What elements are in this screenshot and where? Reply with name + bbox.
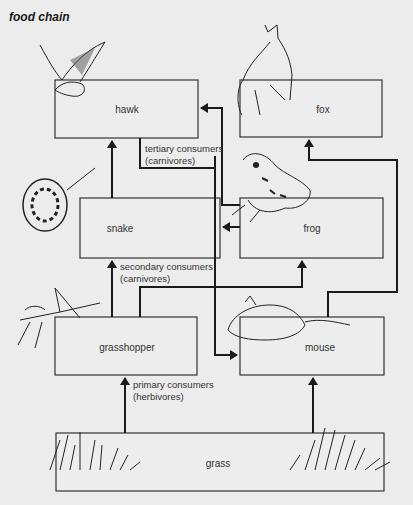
snake-box [80,198,220,258]
edge-mouse-trunk [215,156,216,355]
mouse-label: mouse [305,342,335,353]
fox-label: fox [316,104,329,115]
secondary-label-1: secondary consumers [120,261,213,272]
grasshopper-label: grasshopper [99,342,155,353]
grass-label: grass [206,458,230,469]
food-chain-diagram: hawk fox snake frog grasshopper mouse gr… [0,0,413,505]
snake-label: snake [107,223,134,234]
fox-box [240,80,382,137]
primary-label-1: primary consumers [133,379,214,390]
tertiary-label-1: tertiary consumers [145,143,223,154]
secondary-label-2: (carnivores) [120,273,170,284]
primary-label-2: (herbivores) [133,391,184,402]
tertiary-label-2: (carnivores) [145,155,195,166]
edge-frog-hawk [201,108,240,205]
hawk-label: hawk [115,104,139,115]
frog-label: frog [303,223,320,234]
